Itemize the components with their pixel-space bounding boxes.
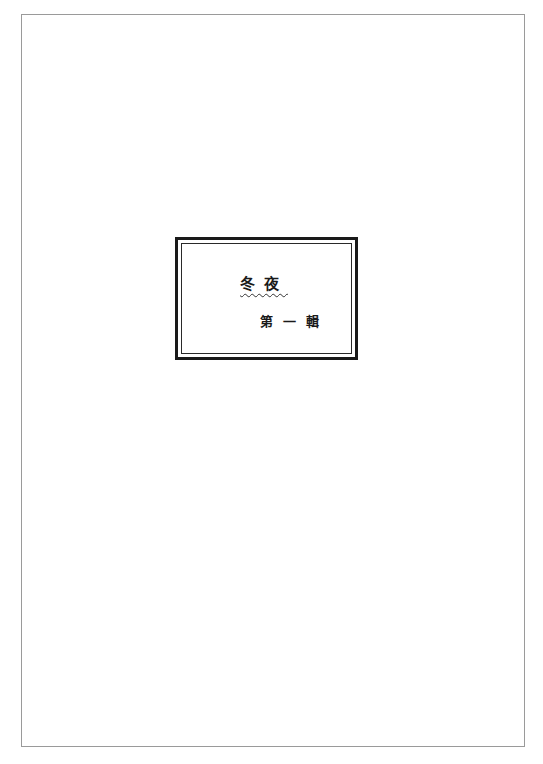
- title-frame-inner-border: 冬夜 第一輯: [181, 243, 352, 354]
- volume-label: 第一輯: [260, 311, 329, 330]
- title-frame: 冬夜 第一輯: [175, 237, 358, 360]
- page-border: [21, 14, 525, 747]
- book-title: 冬夜: [240, 272, 288, 293]
